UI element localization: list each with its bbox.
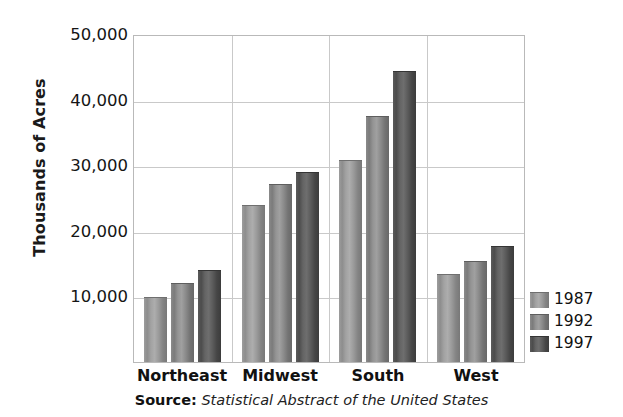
source-label: Source: (135, 392, 197, 408)
legend-item[interactable]: 1992 (530, 312, 620, 332)
bar[interactable] (437, 274, 460, 362)
bar[interactable] (491, 246, 514, 362)
y-tick-label: 40,000 (36, 92, 128, 109)
y-tick-label: 10,000 (36, 289, 128, 306)
x-category-label: Northeast (133, 366, 231, 385)
bar[interactable] (366, 116, 389, 362)
legend-swatch-icon (530, 292, 549, 308)
plot-area (133, 35, 525, 363)
x-category-label: Midwest (231, 366, 329, 385)
legend-label: 1997 (554, 336, 593, 352)
legend-item[interactable]: 1997 (530, 334, 620, 354)
bar[interactable] (339, 160, 362, 362)
bar-groups (134, 36, 524, 362)
source-note: Source: Statistical Abstract of the Unit… (0, 392, 623, 408)
bar[interactable] (171, 283, 194, 362)
bar-chart: Thousands of Acres 10,00020,00030,00040,… (0, 0, 623, 417)
bar-group (329, 36, 427, 362)
y-tick-label: 20,000 (36, 224, 128, 241)
x-category-label: West (427, 366, 525, 385)
bar-group (134, 36, 232, 362)
x-axis-category-labels: NortheastMidwestSouthWest (133, 366, 525, 385)
bar-group (232, 36, 330, 362)
bar[interactable] (393, 71, 416, 362)
bar-group (427, 36, 525, 362)
legend-label: 1992 (554, 314, 593, 330)
y-axis-tick-labels: 10,00020,00030,00040,00050,000 (36, 0, 128, 417)
bar[interactable] (144, 297, 167, 362)
legend-swatch-icon (530, 336, 549, 352)
y-tick-label: 50,000 (36, 27, 128, 44)
y-tick-label: 30,000 (36, 158, 128, 175)
bar[interactable] (269, 184, 292, 362)
legend: 198719921997 (530, 290, 620, 356)
bar[interactable] (198, 270, 221, 362)
legend-label: 1987 (554, 292, 593, 308)
bar[interactable] (296, 172, 319, 362)
bar[interactable] (242, 205, 265, 362)
bar[interactable] (464, 261, 487, 362)
legend-item[interactable]: 1987 (530, 290, 620, 310)
source-value: Statistical Abstract of the United State… (201, 392, 488, 408)
legend-swatch-icon (530, 314, 549, 330)
x-category-label: South (329, 366, 427, 385)
